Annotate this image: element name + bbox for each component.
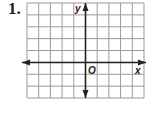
x-axis-left-arrow-icon [22,60,30,66]
coordinate-grid: y x O [0,0,156,115]
y-axis-down-arrow-icon [83,90,89,98]
y-axis-label: y [74,3,81,14]
origin-label: O [88,65,96,76]
x-axis-label: x [134,65,141,76]
y-axis-up-arrow-icon [83,3,89,11]
